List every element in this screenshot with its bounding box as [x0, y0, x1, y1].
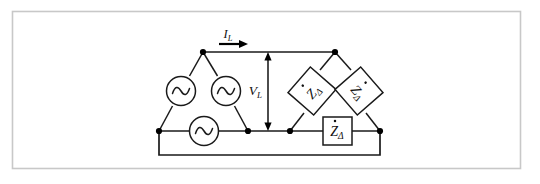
voltage-subscript: L — [256, 90, 262, 100]
current-subscript: L — [227, 33, 233, 43]
figure-frame — [13, 12, 521, 169]
impedance-bottom-branch: ZΔ — [323, 117, 352, 145]
node-load-right — [377, 128, 383, 134]
impedance-symbol: Z — [330, 124, 338, 139]
node-load-top — [332, 49, 338, 55]
node-source-right — [245, 128, 251, 134]
ac-source-left — [167, 77, 196, 106]
circuit-diagram-canvas: ZΔ ZΔ ZΔ — [0, 0, 540, 184]
overdot-icon — [334, 120, 337, 123]
node-source-left — [156, 128, 162, 134]
node-source-top — [200, 49, 206, 55]
ac-source-bottom — [190, 117, 219, 146]
circuit-figure: ZΔ ZΔ ZΔ — [0, 0, 540, 184]
node-load-left — [287, 128, 293, 134]
ac-source-right — [212, 77, 241, 106]
impedance-subscript: Δ — [337, 131, 344, 141]
